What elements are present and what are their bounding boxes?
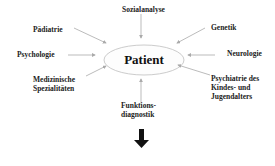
node-sozialanalyse: Sozialanalyse xyxy=(122,5,165,14)
down-arrow-icon xyxy=(134,129,149,148)
node-psychologie: Psychologie xyxy=(17,50,55,59)
node-paediatrie: Pädiatrie xyxy=(33,25,63,34)
arrow-paediatrie xyxy=(74,28,106,43)
arrow-medizinische xyxy=(86,66,106,76)
node-neurologie: Neurologie xyxy=(227,49,262,58)
node-genetik: Genetik xyxy=(211,23,236,32)
arrow-genetik xyxy=(177,28,205,43)
patient-label: Patient xyxy=(104,46,184,74)
node-psychiatrie: Psychiatrie des Kindes- und Jugendalters xyxy=(211,74,259,101)
node-funktionsdiagnostik: Funktions- diagnostik xyxy=(121,101,156,119)
node-medizinische: Medizinische Spezialitäten xyxy=(33,75,75,93)
